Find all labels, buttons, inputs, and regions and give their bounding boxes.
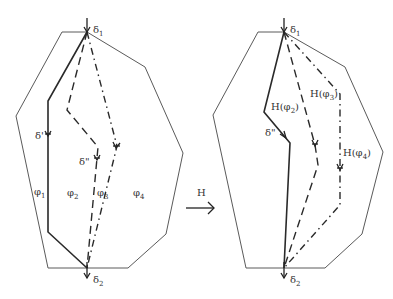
label-H: H [197,187,206,198]
path-phi2 [48,32,87,268]
delta2-arrow-icon [84,262,90,278]
mapping-h: H [186,187,214,214]
label-delta2: δ2 [93,274,104,288]
label-delta-dprime-right: δ" [265,127,276,138]
label-h-phi2: H(φ2) [271,101,299,115]
label-h-phi4: H(φ4) [343,147,371,161]
path-h-phi2 [264,32,290,268]
homotopy-diagram: δ1 δ2 δ' δ" φ1 φ2 φ3 φ4 H [0,0,393,299]
right-figure: δ1 δ2 δ" H(φ2) H(φ3) H(φ4) [213,18,383,288]
label-phi2: φ2 [67,187,78,201]
label-phi1: φ1 [34,186,45,200]
left-figure: δ1 δ2 δ' δ" φ1 φ2 φ3 φ4 [16,18,183,288]
delta2-arrow-icon-right [281,262,287,278]
label-phi3: φ3 [97,187,108,201]
left-region-boundary [16,32,183,268]
label-delta-dprime: δ" [79,156,90,167]
path-phi4 [87,32,117,268]
label-delta1: δ1 [93,24,104,38]
label-delta-prime: δ' [35,130,44,141]
delta1-arrow-icon [84,18,90,32]
h-phi3-arrow-icon [312,140,318,146]
path-phi3 [67,32,98,268]
right-arrow-icon [186,202,214,214]
path-h-phi4 [284,32,340,268]
label-phi4: φ4 [133,187,145,201]
delta1-arrow-icon-right [281,18,287,32]
label-delta2-right: δ2 [290,274,301,288]
label-h-phi3: H(φ3) [310,88,338,102]
